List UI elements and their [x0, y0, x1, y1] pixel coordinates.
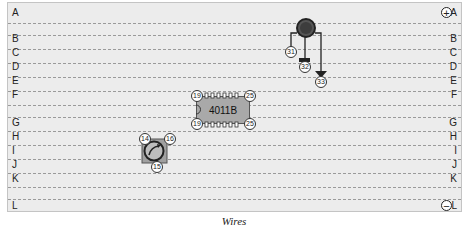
breadboard: A B C D E F G H I J K L A B C D E F G H …: [7, 2, 462, 212]
ic-pin-bottom-left: 19: [191, 118, 203, 130]
pot-pin-right: 16: [164, 133, 176, 145]
ic-pin-bottom-right: 25: [244, 118, 256, 130]
ic-pin-top-left: 19: [191, 90, 203, 102]
figure-caption: Wires: [0, 215, 468, 227]
pot-pin-left: 14: [139, 133, 151, 145]
ic-pin-top-right: 25: [244, 90, 256, 102]
pot-pin-bottom: 15: [151, 161, 163, 173]
ic-pins: [8, 3, 463, 213]
